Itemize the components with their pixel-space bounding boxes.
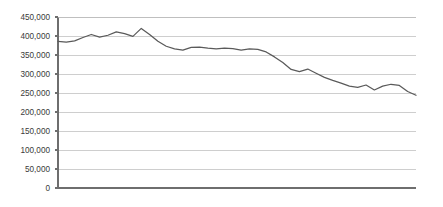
y-axis-tick-label: 50,000: [25, 165, 50, 174]
y-axis-tick-label: 450,000: [20, 13, 50, 22]
y-axis-tick-label: 400,000: [20, 32, 50, 41]
y-axis-tick-label: 250,000: [20, 89, 50, 98]
y-axis-tick-label: 100,000: [20, 146, 50, 155]
y-axis-tick-label: 300,000: [20, 70, 50, 79]
y-axis-tick-label: 150,000: [20, 127, 50, 136]
y-axis-tick-label: 0: [45, 184, 50, 193]
chart-canvas: 050,000100,000150,000200,000250,000300,0…: [0, 0, 443, 207]
gridlines-group: [55, 17, 416, 188]
data-line-series-1: [58, 28, 416, 95]
y-axis-tick-labels: 050,000100,000150,000200,000250,000300,0…: [20, 13, 50, 193]
axis-lines-group: [58, 17, 416, 188]
line-chart: 050,000100,000150,000200,000250,000300,0…: [0, 0, 443, 207]
data-series-group: [58, 28, 416, 95]
y-axis-tick-label: 200,000: [20, 108, 50, 117]
y-axis-tick-label: 350,000: [20, 51, 50, 60]
